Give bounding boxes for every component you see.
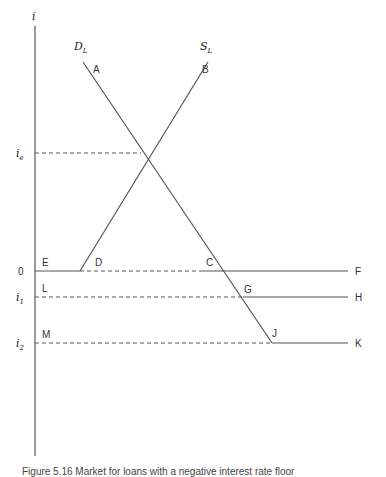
point-label-A: A: [93, 64, 100, 75]
point-label-D: D: [95, 257, 102, 268]
demand-curve: [83, 62, 272, 343]
rate-label-i2: i2: [16, 337, 25, 352]
point-label-G: G: [244, 284, 252, 295]
axis-label-i: i: [32, 10, 36, 23]
point-label-F: F: [355, 266, 361, 277]
rate-label-ie: ie: [16, 147, 24, 162]
demand-curve-label: DL: [73, 40, 88, 55]
point-label-J: J: [272, 328, 277, 339]
figure-caption: Figure 5.16 Market for loans with a nega…: [22, 466, 294, 477]
point-label-M: M: [42, 329, 50, 340]
point-label-C: C: [206, 257, 213, 268]
point-label-E: E: [42, 257, 49, 268]
supply-curve-label: SL: [200, 40, 213, 55]
rate-label-zero: 0: [18, 266, 24, 277]
point-label-L: L: [42, 283, 48, 294]
supply-curve: [80, 62, 208, 271]
rate-label-i1: i1: [16, 291, 24, 306]
point-label-K: K: [355, 338, 362, 349]
point-label-B: B: [202, 64, 209, 75]
point-label-H: H: [355, 292, 362, 303]
